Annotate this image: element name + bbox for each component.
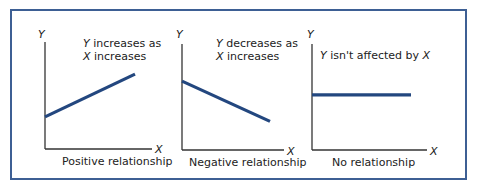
caption: No relationship (332, 156, 415, 169)
relationship-diagram: Y X Y increases as X increases Positive … (0, 0, 478, 191)
relationship-line (182, 81, 270, 121)
annotation-line-1: Y isn't affected by X (320, 49, 431, 62)
annotation-line-2: X increases (82, 50, 146, 63)
caption: Positive relationship (62, 155, 173, 168)
y-axis-label: Y (307, 28, 315, 41)
y-axis-label: Y (38, 28, 46, 41)
x-axis-label: X (429, 145, 438, 158)
annotation-line-1: Y increases as (83, 37, 162, 50)
panel-none: Y X Y isn't affected by X No relationshi… (307, 28, 438, 169)
annotation-line-2: X increases (215, 50, 279, 63)
caption: Negative relationship (189, 156, 307, 169)
panel-positive: Y X Y increases as X increases Positive … (38, 28, 173, 168)
y-axis-label: Y (176, 28, 184, 41)
relationship-line (45, 74, 135, 117)
annotation-line-1: Y decreases as (216, 37, 298, 50)
panel-negative: Y X Y decreases as X increases Negative … (176, 28, 307, 169)
